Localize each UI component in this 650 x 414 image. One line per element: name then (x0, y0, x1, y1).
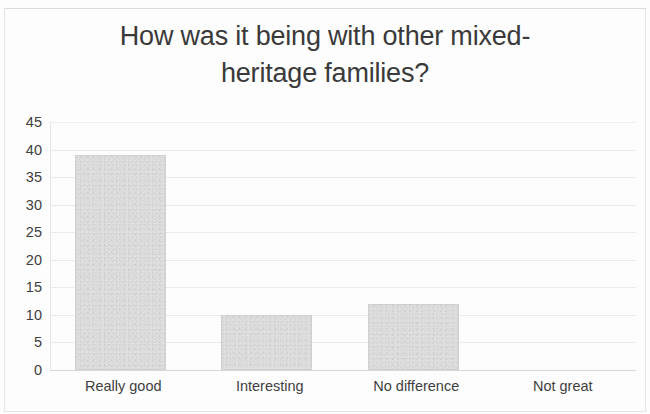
bar[interactable] (368, 304, 459, 370)
y-axis-labels: 454035302520151050 (8, 112, 42, 380)
y-axis-tick-label: 20 (8, 253, 42, 268)
bar-series (50, 122, 636, 370)
x-axis-line (50, 370, 636, 371)
y-axis-tick-label: 0 (8, 363, 42, 378)
x-axis-tick-label: Not great (490, 376, 637, 396)
bar[interactable] (221, 315, 312, 370)
plot-area: 454035302520151050 Really goodInterestin… (0, 0, 650, 414)
chart-page: How was it being with other mixed- herit… (0, 0, 650, 414)
y-axis-tick-label: 40 (8, 142, 42, 157)
y-axis-tick-label: 15 (8, 280, 42, 295)
y-axis-tick-label: 35 (8, 170, 42, 185)
y-axis-tick-label: 45 (8, 115, 42, 130)
y-axis-tick-label: 5 (8, 335, 42, 350)
y-axis-tick-label: 30 (8, 197, 42, 212)
x-axis-tick-label: No difference (343, 376, 490, 396)
x-axis-labels: Really goodInterestingNo differenceNot g… (50, 376, 636, 402)
y-axis-tick-label: 10 (8, 308, 42, 323)
bar-slot (197, 122, 344, 370)
bar-slot (343, 122, 490, 370)
bar-slot (50, 122, 197, 370)
bar[interactable] (75, 155, 166, 370)
bar-slot (490, 122, 637, 370)
y-axis-tick-label: 25 (8, 225, 42, 240)
x-axis-tick-label: Interesting (197, 376, 344, 396)
x-axis-tick-label: Really good (50, 376, 197, 396)
